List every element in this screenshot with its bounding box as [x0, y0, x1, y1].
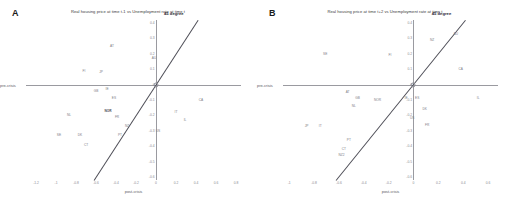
x-tick-label: -0.6 — [93, 181, 99, 185]
vertical-axis — [413, 20, 414, 180]
x-tick-label: 0.2 — [174, 181, 179, 185]
y-tick-label: 0.4 — [407, 21, 412, 25]
data-point-label: NZ2 — [338, 153, 344, 157]
y-axis-label: pre-crisis — [0, 82, 16, 87]
figure-container: A Real housing price at time t-1 vs Unem… — [0, 0, 513, 210]
horizontal-axis — [26, 85, 241, 86]
y-tick-label: 0.1 — [407, 67, 412, 71]
data-point-label: NZ — [430, 38, 434, 42]
y-tick-label: 0.4 — [150, 21, 155, 25]
origin-marker — [411, 82, 416, 87]
y-tick-label: -0.6 — [406, 175, 412, 179]
data-point-label: JP — [99, 70, 103, 74]
data-point-label: NL — [67, 113, 71, 117]
x-tick-label: -1 — [55, 181, 58, 185]
data-point-label: FR — [115, 115, 119, 119]
data-point-label: JP — [305, 124, 309, 128]
data-point-label: NZ — [125, 124, 129, 128]
x-tick-label: -0.8 — [73, 181, 79, 185]
panel-a-title: Real housing price at time t-1 vs Unempl… — [0, 9, 256, 14]
x-tick-label: 0.4 — [461, 181, 466, 185]
data-point-label: IE — [405, 96, 408, 100]
y-tick-label: -0.4 — [406, 144, 412, 148]
y-tick-label: -0.3 — [149, 129, 155, 133]
x-tick-label: 0 — [155, 181, 157, 185]
y-tick-label: 0.3 — [407, 36, 412, 40]
x-tick-label: -1.2 — [33, 181, 39, 185]
y-tick-label: -0.6 — [149, 175, 155, 179]
y-tick-label: 0.3 — [150, 36, 155, 40]
forty-five-degree-label: 45 degree — [164, 11, 184, 16]
data-point-label: NOR — [374, 98, 381, 102]
x-tick-label: -0.2 — [133, 181, 139, 185]
y-tick-label: -0.2 — [149, 113, 155, 117]
x-tick-label: 0.4 — [194, 181, 199, 185]
x-tick-label: 0.6 — [486, 181, 491, 185]
x-axis-label: post-crisis — [125, 189, 143, 194]
data-point-label: SE — [323, 52, 327, 56]
data-point-label: DK — [78, 133, 82, 137]
y-tick-label: -0.5 — [149, 160, 155, 164]
data-point-label: CT — [84, 143, 88, 147]
data-point-label: AU — [454, 32, 458, 36]
x-tick-label: -0.2 — [386, 181, 392, 185]
data-point-label: US — [156, 129, 160, 133]
x-tick-label: -0.8 — [311, 181, 317, 185]
panel-b: B Real housing price at time t+2 vs Unem… — [257, 0, 513, 210]
origin-marker — [154, 82, 159, 87]
data-point-label: AU — [152, 56, 156, 60]
y-tick-label: -0.4 — [149, 144, 155, 148]
data-point-label: IE — [105, 87, 108, 91]
vertical-axis — [156, 20, 157, 180]
data-point-label: GB — [94, 89, 99, 93]
data-point-label: IL — [477, 96, 480, 100]
panel-a-plot-area: -1.2-1-0.8-0.6-0.4-0.200.20.40.60.80.40.… — [26, 20, 241, 180]
x-tick-label: -0.4 — [361, 181, 367, 185]
y-tick-label: -0.1 — [149, 98, 155, 102]
data-point-label: GB — [355, 96, 360, 100]
y-tick-label: 0.2 — [150, 52, 155, 56]
data-point-label: NL — [352, 104, 356, 108]
data-point-label: AT — [110, 44, 114, 48]
horizontal-axis — [283, 85, 498, 86]
y-tick-label: -0.5 — [406, 160, 412, 164]
y-tick-label: 0.1 — [150, 67, 155, 71]
panel-b-title: Real housing price at time t+2 vs Unempl… — [257, 9, 513, 14]
x-tick-label: 0.2 — [436, 181, 441, 185]
data-point-label: NOR — [104, 109, 111, 113]
y-axis-label: pre-crisis — [257, 82, 273, 87]
data-point-label: ES — [415, 96, 419, 100]
panel-a: A Real housing price at time t-1 vs Unem… — [0, 0, 256, 210]
panel-b-plot-area: -1-0.8-0.6-0.4-0.200.20.40.60.40.30.20.1… — [283, 20, 498, 180]
data-point-label: PT — [118, 133, 122, 137]
x-tick-label: -0.4 — [113, 181, 119, 185]
data-point-label: CA — [458, 67, 462, 71]
x-tick-label: 0.8 — [234, 181, 239, 185]
data-point-label: FR — [425, 123, 429, 127]
x-tick-label: -1 — [288, 181, 291, 185]
data-point-label: IT — [175, 110, 178, 114]
data-point-label: FI — [388, 53, 391, 57]
data-point-label: AT — [346, 90, 350, 94]
data-point-label: ES — [112, 96, 116, 100]
data-point-label: FI — [83, 69, 86, 73]
data-point-label: CT — [342, 147, 346, 151]
x-tick-label: -0.6 — [336, 181, 342, 185]
x-axis-label: post-crisis — [382, 189, 400, 194]
data-point-label: DK — [422, 107, 426, 111]
data-point-label: US — [410, 116, 414, 120]
y-tick-label: 0.2 — [407, 52, 412, 56]
data-point-label: IL — [184, 118, 187, 122]
data-point-label: CA — [199, 98, 203, 102]
x-tick-label: 0 — [413, 181, 415, 185]
forty-five-degree-label: 45 degree — [432, 11, 452, 16]
data-point-label: IT — [319, 124, 322, 128]
data-point-label: PT — [347, 138, 351, 142]
data-point-label: SE — [57, 133, 61, 137]
x-tick-label: 0.6 — [214, 181, 219, 185]
y-tick-label: -0.3 — [406, 129, 412, 133]
